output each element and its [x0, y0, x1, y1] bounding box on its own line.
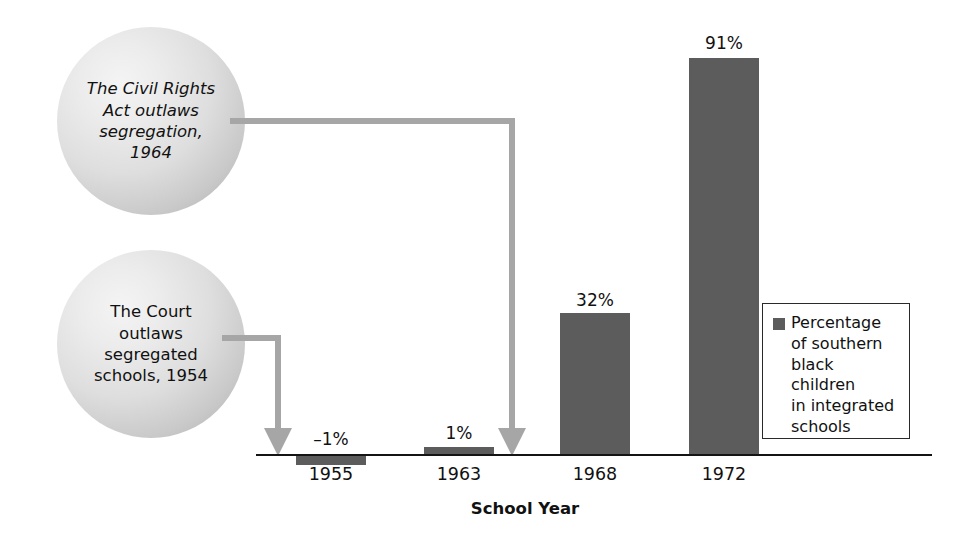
tick-label-1968: 1968	[540, 464, 650, 484]
callout-text-civil-rights: The Civil Rights Act outlaws segregation…	[70, 78, 232, 164]
tick-label-1972: 1972	[669, 464, 779, 484]
legend: Percentage of southern black children in…	[762, 303, 910, 439]
legend-label: Percentage of southern black children in…	[791, 313, 901, 438]
x-axis-line	[256, 454, 932, 456]
tick-label-1955: 1955	[276, 464, 386, 484]
tick-label-1963: 1963	[404, 464, 514, 484]
bar-1963	[424, 447, 494, 454]
connector-line-civil-rights	[230, 121, 512, 430]
callout-circle-court: The Court outlaws segregated schools, 19…	[57, 250, 245, 438]
bar-label-1972: 91%	[679, 33, 769, 53]
bar-label-1963: 1%	[414, 423, 504, 443]
chart-figure: The Civil Rights Act outlaws segregation…	[0, 0, 972, 544]
legend-swatch-icon	[773, 318, 785, 330]
bar-1968	[560, 313, 630, 454]
callout-circle-civil-rights: The Civil Rights Act outlaws segregation…	[57, 27, 245, 215]
x-axis-title: School Year	[425, 499, 625, 518]
bar-label-1955: –1%	[286, 429, 376, 449]
callout-text-court: The Court outlaws segregated schools, 19…	[70, 301, 232, 387]
bar-label-1968: 32%	[550, 290, 640, 310]
bar-1972	[689, 58, 759, 454]
